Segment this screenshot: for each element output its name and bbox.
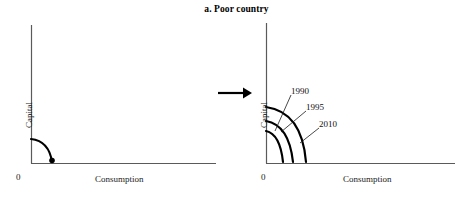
leader-line-2010: [300, 128, 319, 143]
left-origin-label: 0: [16, 172, 21, 182]
right-x-axis-label: Consumption: [343, 174, 392, 184]
left-frontier-curve-1990: [31, 139, 52, 162]
transition-arrow-head-icon: [243, 88, 252, 99]
left-endpoint-dot-icon: [49, 158, 55, 164]
figure-container: a. Poor country: [0, 0, 473, 202]
right-y-axis-label: Capital: [259, 102, 269, 128]
curve-label-1990: 1990: [291, 86, 309, 96]
transition-arrow-group: [218, 88, 252, 99]
right-panel-curves: [266, 107, 306, 162]
curve-label-2010: 2010: [319, 119, 337, 129]
left-y-axis-label: Capital: [24, 102, 34, 128]
figure-canvas: [0, 0, 473, 202]
curve-label-1995: 1995: [306, 102, 324, 112]
left-x-axis-label: Consumption: [95, 174, 144, 184]
left-panel-axes: [31, 25, 216, 164]
right-frontier-curve-1995: [266, 121, 293, 162]
right-frontier-curve-1990: [266, 131, 283, 162]
left-panel-curves: [31, 139, 55, 163]
right-origin-label: 0: [261, 172, 266, 182]
